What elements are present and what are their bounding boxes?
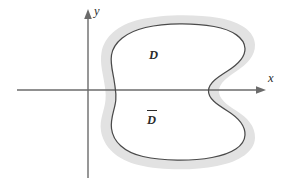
- region-d-closure-label: D: [147, 110, 156, 127]
- y-axis-arrow-icon: [84, 9, 92, 19]
- overbar-wrapper: D: [147, 110, 156, 127]
- region-d-closure-glyph: D: [147, 112, 156, 127]
- figure-container: x y D D: [0, 0, 285, 184]
- x-axis-arrow-icon: [256, 86, 266, 94]
- region-diagram-svg: [0, 0, 285, 184]
- interior-region-group: [111, 24, 245, 160]
- overbar-rule-icon: [147, 110, 157, 111]
- y-axis-group: [84, 9, 92, 178]
- x-axis-label: x: [268, 72, 274, 85]
- interior-white-fill: [111, 24, 245, 160]
- y-axis-label: y: [94, 5, 100, 18]
- region-d-label: D: [149, 49, 158, 62]
